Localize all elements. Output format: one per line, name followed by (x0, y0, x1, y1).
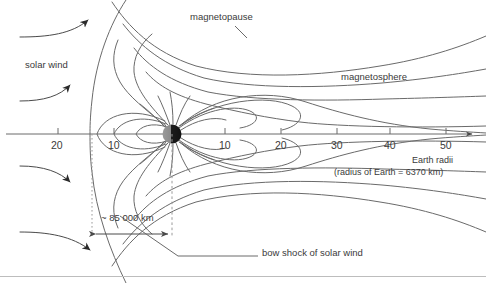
solar-wind-arrows (20, 20, 90, 250)
earth-radii-axis (6, 128, 472, 134)
magnetopause-line-top (112, 2, 486, 75)
magnetopause-label: magnetopause (190, 12, 253, 23)
distance-marker-label: ~ 85 000 km (101, 213, 154, 224)
solar-wind-label: solar wind (25, 60, 68, 71)
polar-line-n2 (170, 92, 173, 124)
magnetic-field-lines (90, 0, 486, 283)
diagram-canvas (0, 0, 486, 283)
tick-label-right-50: 50 (440, 139, 452, 151)
bow-shock-label: bow shock of solar wind (262, 248, 363, 259)
solar-wind-arrow-1 (20, 20, 88, 37)
axis-title-earth-radius-note: (radius of Earth = 6370 km) (334, 167, 443, 177)
dayside-field-line-1 (134, 34, 168, 125)
tick-label-left-20: 20 (51, 139, 63, 151)
solar-wind-arrow-2 (20, 85, 70, 101)
magnetosphere-diagram: solar wind magnetopause magnetosphere bo… (0, 0, 486, 283)
magnetopause-leader (235, 26, 247, 38)
tick-label-right-30: 30 (331, 139, 343, 151)
axis-title-earth-radii: Earth radii (412, 155, 453, 165)
tick-label-right-10: 10 (219, 139, 231, 151)
solar-wind-arrow-3 (20, 166, 70, 182)
tick-label-right-20: 20 (275, 139, 287, 151)
tail-line-top-4 (146, 72, 486, 127)
tick-label-right-40: 40 (384, 139, 396, 151)
magnetosphere-label: magnetosphere (341, 72, 407, 83)
solar-wind-arrow-4 (20, 232, 90, 250)
tick-label-left-10: 10 (108, 139, 120, 151)
